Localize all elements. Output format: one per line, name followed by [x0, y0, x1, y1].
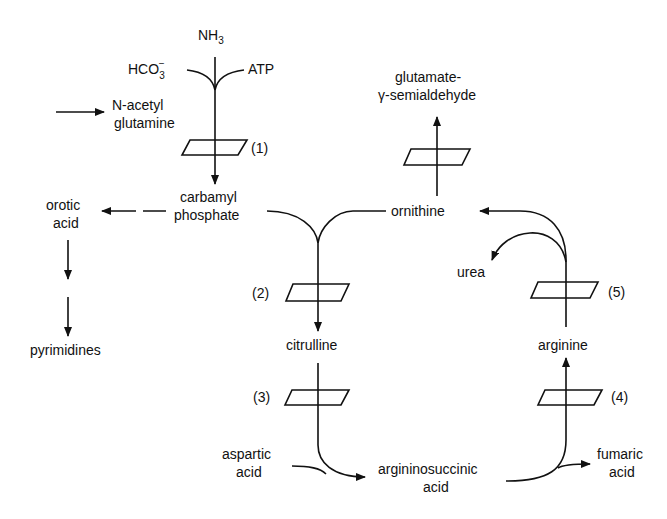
label-atp: ATP: [248, 61, 274, 77]
aspartic-merge-line: [292, 466, 326, 474]
label-hco3: HCO3−: [128, 58, 165, 81]
label-phosphate: phosphate: [174, 207, 240, 223]
enzyme-3-box: [285, 390, 349, 405]
label-glutamate: glutamate-: [395, 69, 461, 85]
citrulline-line-down: [318, 363, 365, 477]
label-aspartic: aspartic: [222, 446, 271, 462]
arginine-to-ornithine: [480, 211, 566, 327]
label-glutamine: glutamine: [114, 115, 175, 131]
label-pyrimidines: pyrimidines: [30, 342, 101, 358]
arrow-to-urea: [492, 233, 566, 262]
enzyme-5-box: [531, 282, 598, 298]
label-ornithine: ornithine: [391, 203, 445, 219]
enzyme-5-label: (5): [608, 284, 625, 300]
carbamyl-merge-curve: [267, 211, 318, 243]
label-fumaric: fumaric: [597, 446, 643, 462]
label-nh3: NH3: [198, 27, 224, 46]
label-argininosuccinic: argininosuccinic: [378, 461, 478, 477]
label-aspartic-acid: acid: [236, 464, 262, 480]
label-citrulline: citrulline: [286, 337, 338, 353]
enzyme-4-label: (4): [611, 389, 628, 405]
label-argininosuccinic-acid: acid: [423, 479, 449, 495]
label-orotic-acid: acid: [53, 215, 79, 231]
atp-curve: [215, 70, 244, 90]
ornithine-merge-curve: [318, 211, 386, 243]
label-carbamyl: carbamyl: [180, 189, 237, 205]
label-n-acetyl: N-acetyl: [112, 97, 163, 113]
enzyme-2-label: (2): [252, 285, 269, 301]
arrow-to-fumaric: [558, 464, 590, 468]
argsucc-to-arginine: [506, 358, 566, 481]
label-semialdehyde: γ-semialdehyde: [378, 87, 476, 103]
enzyme-4-box: [538, 390, 602, 405]
label-fumaric-acid: acid: [609, 464, 635, 480]
enzyme-3-label: (3): [253, 389, 270, 405]
enzyme-1-label: (1): [251, 140, 268, 156]
hco3-curve: [187, 70, 215, 90]
urea-cycle-diagram: NH3 HCO3− ATP N-acetyl glutamine (1) car…: [0, 0, 667, 519]
label-arginine: arginine: [538, 337, 588, 353]
label-orotic: orotic: [46, 197, 80, 213]
label-urea: urea: [457, 264, 485, 280]
